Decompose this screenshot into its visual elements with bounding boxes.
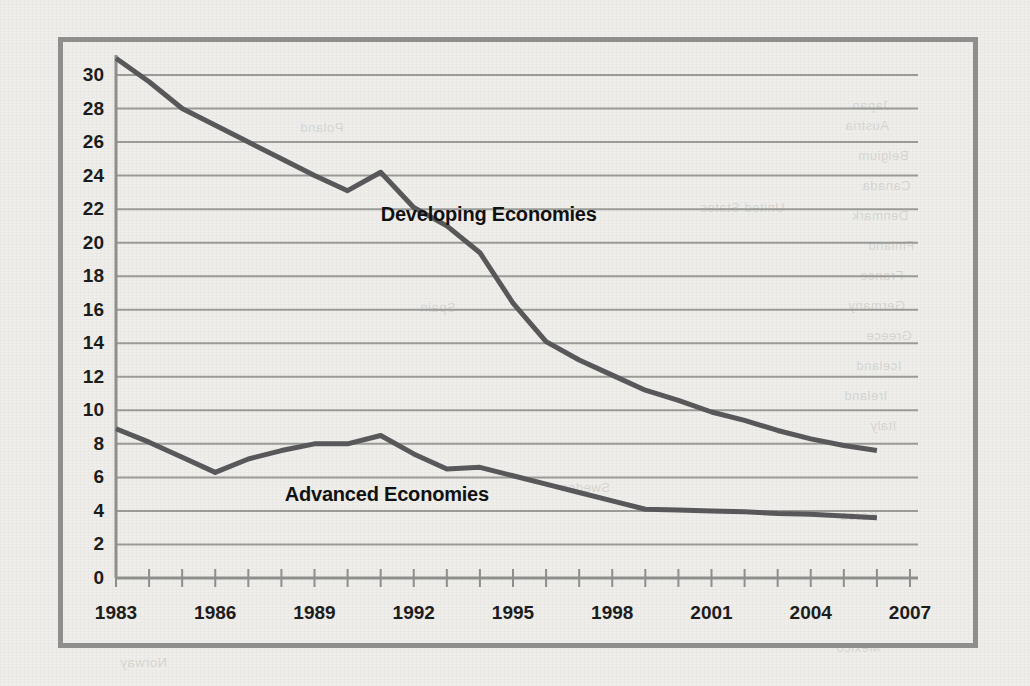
y-tick-label: 26 xyxy=(64,131,104,153)
y-tick-label: 4 xyxy=(64,500,104,522)
y-tick-label: 14 xyxy=(64,332,104,354)
y-tick-label: 0 xyxy=(64,567,104,589)
series-label-2: Advanced Economies xyxy=(285,483,489,506)
y-tick-label: 10 xyxy=(64,399,104,421)
x-tick-label: 1989 xyxy=(275,602,355,624)
x-tick-label: 1995 xyxy=(473,602,553,624)
y-tick-label: 18 xyxy=(64,265,104,287)
x-tick-label: 1986 xyxy=(175,602,255,624)
x-tick-label: 2004 xyxy=(771,602,851,624)
y-tick-label: 30 xyxy=(64,64,104,86)
chart-plot-area xyxy=(63,42,973,643)
y-tick-label: 24 xyxy=(64,165,104,187)
y-tick-label: 28 xyxy=(64,98,104,120)
y-tick-label: 16 xyxy=(64,299,104,321)
chart-frame: 024681012141618202224262830 198319861989… xyxy=(58,37,978,648)
x-tick-label: 2007 xyxy=(870,602,950,624)
data-series-lines xyxy=(116,58,877,517)
x-tick-label: 1998 xyxy=(572,602,652,624)
y-tick-label: 20 xyxy=(64,232,104,254)
y-tick-label: 2 xyxy=(64,533,104,555)
series-line-1 xyxy=(116,58,877,450)
x-tick-label: 1992 xyxy=(374,602,454,624)
chart-page: AustriaBelgiumCanadaDenmarkFinlandFrance… xyxy=(0,0,1030,686)
y-tick-label: 22 xyxy=(64,198,104,220)
series-label-1: Developing Economies xyxy=(381,203,597,226)
bleed-through-text: Norway xyxy=(120,655,167,670)
y-tick-label: 12 xyxy=(64,366,104,388)
y-tick-label: 8 xyxy=(64,433,104,455)
series-line-2 xyxy=(116,429,877,518)
y-tick-label: 6 xyxy=(64,466,104,488)
x-tick-label: 1983 xyxy=(76,602,156,624)
x-tick-label: 2001 xyxy=(672,602,752,624)
